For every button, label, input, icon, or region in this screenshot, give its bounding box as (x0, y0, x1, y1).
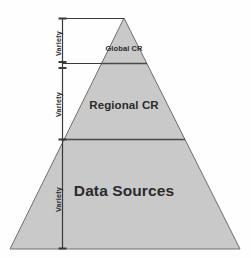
pyramid-diagram: Global CR Regional CR Data Sources Varie… (0, 0, 251, 258)
tier-label-global-cr: Global CR (90, 44, 158, 53)
axis-label-variety-bottom: Variety (54, 187, 63, 212)
tier-label-regional-cr: Regional CR (74, 99, 174, 111)
tier-label-data-sources: Data Sources (58, 182, 190, 200)
axis-label-variety-mid: Variety (54, 92, 63, 117)
pyramid-graphic (0, 0, 251, 258)
axis-label-variety-top: Variety (54, 31, 63, 56)
